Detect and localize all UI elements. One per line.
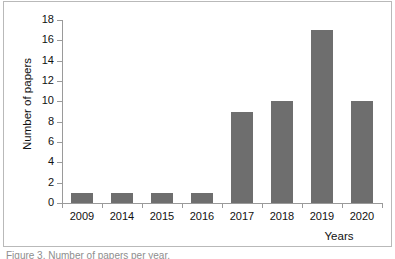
y-axis-tick-label: 0 bbox=[28, 197, 54, 208]
figure-caption: Figure 3. Number of papers per year. bbox=[6, 250, 306, 259]
x-axis-tick-label: 2015 bbox=[140, 210, 184, 222]
x-axis-tick bbox=[62, 203, 63, 208]
bar-chart: Number of papers 024681012141618 2009201… bbox=[4, 2, 393, 248]
x-axis-tick-label: 2014 bbox=[100, 210, 144, 222]
bar bbox=[111, 193, 133, 203]
x-axis-tick-label: 2009 bbox=[60, 210, 104, 222]
bar bbox=[351, 101, 373, 203]
y-axis-tick-label: 6 bbox=[28, 136, 54, 147]
y-axis-tick-label: 18 bbox=[28, 14, 54, 25]
x-axis-title: Years bbox=[304, 230, 374, 242]
x-axis-tick bbox=[342, 203, 343, 208]
bar bbox=[311, 30, 333, 203]
x-axis-tick bbox=[142, 203, 143, 208]
bar bbox=[71, 193, 93, 203]
figure-frame: Number of papers 024681012141618 2009201… bbox=[3, 1, 392, 247]
x-axis-tick-label: 2016 bbox=[180, 210, 224, 222]
x-axis-tick bbox=[182, 203, 183, 208]
x-axis-tick-label: 2017 bbox=[220, 210, 264, 222]
x-axis-tick bbox=[222, 203, 223, 208]
x-axis-tick-label: 2018 bbox=[260, 210, 304, 222]
bar bbox=[231, 112, 253, 204]
bar bbox=[151, 193, 173, 203]
y-axis-tick-label: 10 bbox=[28, 95, 54, 106]
x-axis-tick bbox=[102, 203, 103, 208]
y-axis-tick-label: 2 bbox=[28, 177, 54, 188]
y-axis-tick-label: 14 bbox=[28, 55, 54, 66]
y-axis-tick-label: 16 bbox=[28, 34, 54, 45]
x-axis-tick-label: 2020 bbox=[340, 210, 384, 222]
x-axis-tick bbox=[302, 203, 303, 208]
plot-area bbox=[62, 20, 382, 203]
x-axis-tick bbox=[262, 203, 263, 208]
y-axis-tick-label: 4 bbox=[28, 156, 54, 167]
bar bbox=[271, 101, 293, 203]
x-axis-tick bbox=[382, 203, 383, 208]
y-axis-tick-label: 12 bbox=[28, 75, 54, 86]
bar bbox=[191, 193, 213, 203]
x-axis-tick-label: 2019 bbox=[300, 210, 344, 222]
y-axis-tick-label: 8 bbox=[28, 116, 54, 127]
